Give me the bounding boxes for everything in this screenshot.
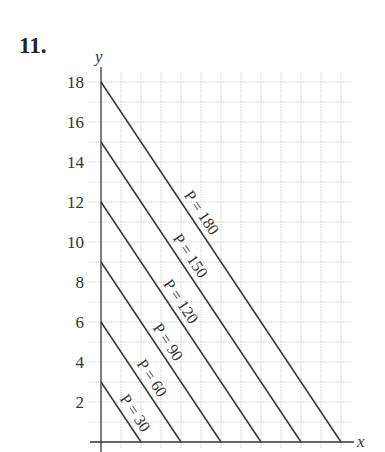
y-tick-label: 2	[76, 393, 85, 412]
y-tick-label: 14	[67, 153, 85, 172]
y-tick-label: 16	[67, 113, 84, 132]
labels: xy24681012141618P = 30P = 60P = 90P = 12…	[67, 47, 365, 451]
chart: xy24681012141618P = 30P = 60P = 90P = 12…	[0, 0, 385, 452]
y-tick-label: 18	[67, 73, 84, 92]
y-tick-label: 4	[76, 353, 85, 372]
y-tick-label: 8	[76, 273, 85, 292]
y-tick-label: 6	[76, 313, 85, 332]
y-axis-label: y	[93, 47, 103, 66]
y-tick-label: 10	[67, 233, 84, 252]
x-axis-label: x	[356, 432, 365, 451]
y-tick-label: 12	[67, 193, 84, 212]
